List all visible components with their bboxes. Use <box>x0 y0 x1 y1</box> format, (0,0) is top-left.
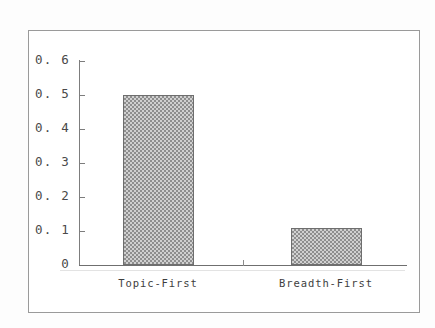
y-tick-mark <box>79 95 85 96</box>
y-tick-group: 0. 2 <box>0 197 79 198</box>
y-tick-label: 0. 5 <box>24 88 70 101</box>
figure-root: 0. 6 0. 5 0. 4 0. 3 0. 2 0. 1 0 <box>0 0 435 328</box>
y-tick-mark <box>79 163 85 164</box>
y-tick-label: 0. 4 <box>24 122 70 135</box>
y-tick-group: 0. 4 <box>0 129 79 130</box>
y-tick-label: 0. 3 <box>24 156 70 169</box>
y-tick-label: 0. 1 <box>24 224 70 237</box>
y-tick-group: 0. 6 <box>0 61 79 62</box>
y-tick-group: 0. 1 <box>0 231 79 232</box>
bar-breadth-first <box>291 228 362 265</box>
plot-area: 0. 6 0. 5 0. 4 0. 3 0. 2 0. 1 0 <box>0 0 435 328</box>
y-tick-mark <box>79 231 85 232</box>
category-label-topic-first: Topic-First <box>93 278 223 289</box>
y-tick-mark <box>79 129 85 130</box>
x-axis-midpoint-tick <box>243 260 244 266</box>
y-tick-group: 0. 5 <box>0 95 79 96</box>
bar-topic-first <box>123 95 194 265</box>
y-tick-mark <box>79 197 85 198</box>
axis-scan-artifact <box>60 270 405 271</box>
y-tick-label: 0. 6 <box>24 54 70 67</box>
y-tick-group: 0 <box>0 265 79 266</box>
y-tick-label: 0. 2 <box>24 190 70 203</box>
y-tick-group: 0. 3 <box>0 163 79 164</box>
y-tick-mark <box>79 61 85 62</box>
category-label-breadth-first: Breadth-First <box>261 278 391 289</box>
y-tick-label: 0 <box>24 258 70 271</box>
